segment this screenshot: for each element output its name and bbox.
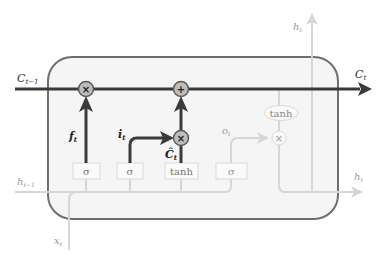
input-gate-label: σ xyxy=(127,166,134,177)
input-multiply-symbol: × xyxy=(177,133,185,144)
add-symbol: + xyxy=(177,84,185,95)
h-right-label: ht xyxy=(354,171,363,183)
c-next-arrowhead xyxy=(358,82,372,96)
forget-multiply-symbol: × xyxy=(82,84,90,95)
h-prev-label: ht−1 xyxy=(17,176,35,188)
output-tanh-label: tanh xyxy=(270,108,293,119)
c-next-label: Ct xyxy=(355,68,366,82)
cell-body xyxy=(48,57,338,219)
forget-gate-label: σ xyxy=(83,166,90,177)
x-input-label: xt xyxy=(54,235,63,247)
output-gate-label: σ xyxy=(228,166,235,177)
output-multiply-symbol: × xyxy=(275,133,283,144)
h-top-label: ht xyxy=(293,21,302,33)
candidate-gate-label: tanh xyxy=(170,166,193,177)
lstm-diagram: σ σ tanh σ × + × tanh × C xyxy=(0,0,383,264)
c-prev-label: Ct−1 xyxy=(17,72,39,86)
